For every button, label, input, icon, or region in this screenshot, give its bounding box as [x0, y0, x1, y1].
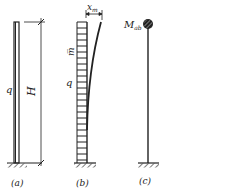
caption-c: (c)	[139, 176, 152, 186]
ladder-column-b	[77, 22, 87, 163]
deflected-shape	[87, 22, 101, 130]
column-a	[14, 22, 19, 163]
structural-diagram: q H (a)	[0, 0, 236, 196]
caption-b: (b)	[76, 178, 89, 188]
mass-label-b: m̅	[66, 47, 76, 56]
panel-b: xm m̅ q (b)	[66, 2, 102, 188]
load-label-a: q	[6, 84, 12, 95]
deflection-label: xm	[87, 2, 98, 13]
load-label-b: q	[66, 77, 72, 88]
mass-label-c: Mab	[123, 19, 142, 31]
height-label: H	[25, 86, 38, 97]
panel-c: Mab (c)	[123, 19, 159, 186]
caption-a: (a)	[11, 178, 24, 188]
panel-a: q H (a)	[6, 18, 45, 188]
